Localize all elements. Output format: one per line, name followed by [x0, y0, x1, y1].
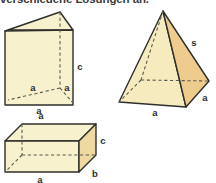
square-pyramid: s a a	[119, 11, 209, 118]
figure-page: verschiedene Lösungen an. a a c a	[0, 0, 216, 183]
triangular-prism: a a c a	[5, 12, 83, 116]
pyramid-label-base-right: a	[202, 92, 208, 103]
box-label-depth: b	[92, 168, 98, 179]
prism-front-face	[5, 30, 73, 105]
geometry-figures: a a c a s a a	[0, 0, 216, 183]
prism-top-face	[5, 12, 73, 31]
box-label-height: c	[100, 135, 105, 146]
box-label-width-top: a	[38, 110, 44, 121]
prism-label-depth-right: a	[64, 82, 70, 93]
pyramid-label-slant: s	[191, 37, 196, 48]
pyramid-label-base-front: a	[152, 107, 158, 118]
box-front-face	[5, 141, 79, 172]
box-label-width-bottom: a	[37, 174, 43, 183]
prism-label-height: c	[77, 61, 82, 72]
rectangular-box: a c b a	[5, 110, 106, 183]
prism-label-depth-left: a	[30, 82, 36, 93]
